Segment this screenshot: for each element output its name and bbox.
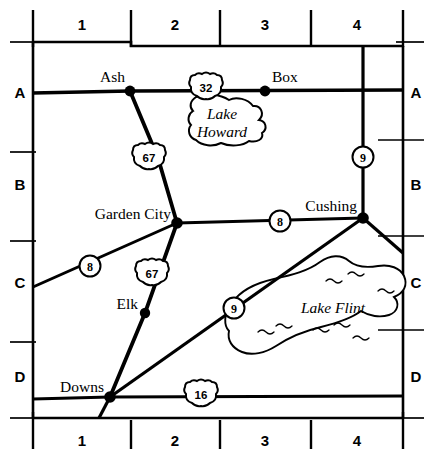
route-marker-8-west: 8	[80, 256, 101, 277]
grid-label-top-1: 1	[78, 16, 86, 33]
city-label-downs: Downs	[60, 378, 104, 395]
city-label-cushing: Cushing	[305, 197, 357, 214]
city-dot-ash	[125, 86, 136, 97]
grid-label-right-c: C	[411, 274, 422, 291]
route-marker-8-east: 8	[270, 211, 291, 232]
route-marker-9-north-label: 9	[360, 151, 366, 165]
route-marker-9-south: 9	[224, 298, 245, 319]
grid-label-left-d: D	[15, 368, 26, 385]
route-marker-16-label: 16	[195, 389, 208, 401]
grid-label-right-b: B	[411, 176, 422, 193]
grid-label-bottom-4: 4	[353, 432, 362, 449]
route-marker-8-west-label: 8	[87, 260, 93, 274]
grid-label-right-d: D	[411, 368, 422, 385]
route-marker-16: 16	[184, 380, 218, 407]
grid-label-left-a: A	[15, 84, 26, 101]
route-marker-32-label: 32	[200, 82, 213, 94]
city-label-ash: Ash	[100, 68, 125, 85]
grid-label-bottom-2: 2	[171, 432, 179, 449]
map-container: 32 67 67 16 9 9 8	[0, 0, 430, 455]
city-dot-garden-city	[171, 217, 183, 229]
route-marker-32: 32	[189, 73, 223, 100]
grid-label-left-c: C	[15, 274, 26, 291]
lake-label-flint: Lake Flint	[300, 299, 366, 316]
grid-label-bottom-1: 1	[78, 432, 86, 449]
city-dot-elk	[140, 308, 150, 318]
city-label-garden-city: Garden City	[95, 205, 171, 222]
route-marker-67-north-label: 67	[143, 152, 156, 164]
route-marker-67-south: 67	[135, 259, 169, 286]
city-dot-cushing	[357, 212, 369, 224]
route-marker-67-south-label: 67	[146, 268, 159, 280]
map-figure: 32 67 67 16 9 9 8	[0, 0, 430, 455]
grid-label-right-a: A	[411, 84, 422, 101]
grid-label-left-b: B	[15, 176, 26, 193]
city-label-box: Box	[272, 68, 298, 85]
route-marker-9-north: 9	[353, 147, 374, 168]
city-label-elk: Elk	[116, 295, 138, 312]
lake-label-howard-line2: Howard	[196, 123, 247, 140]
route-marker-8-east-label: 8	[277, 215, 283, 229]
route-marker-9-south-label: 9	[231, 302, 237, 316]
grid-label-top-4: 4	[353, 16, 362, 33]
road-route-16	[33, 396, 403, 399]
grid-label-top-2: 2	[171, 16, 179, 33]
city-dot-downs	[104, 391, 116, 403]
route-marker-67-north: 67	[132, 143, 166, 170]
city-dot-box	[260, 86, 271, 97]
lake-label-howard-line1: Lake	[206, 105, 237, 122]
grid-label-bottom-3: 3	[261, 432, 269, 449]
grid-label-top-3: 3	[261, 16, 269, 33]
